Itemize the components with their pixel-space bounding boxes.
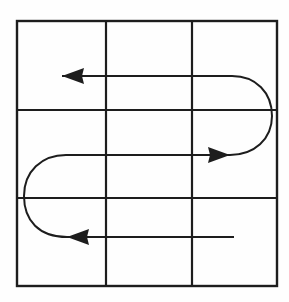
serpentine-path-stroke (24, 76, 272, 237)
serpentine-path-figure: Boustrophedon serpentine coverage path o… (0, 0, 289, 302)
bottom-arrowhead (67, 229, 89, 245)
figure-canvas (0, 0, 289, 302)
middle-arrowhead (208, 147, 230, 163)
top-arrowhead (62, 68, 84, 84)
